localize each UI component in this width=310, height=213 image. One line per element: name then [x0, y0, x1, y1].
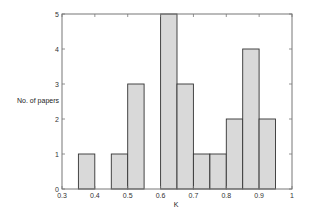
- x-axis-label: K: [174, 201, 179, 208]
- x-tick-label: 0.5: [123, 192, 133, 199]
- histogram-bars: [78, 14, 275, 189]
- y-tick-label: 1: [55, 151, 59, 158]
- histogram-bar: [128, 84, 144, 189]
- histogram-bar: [243, 49, 259, 189]
- x-tick-label: 0.7: [189, 192, 199, 199]
- y-tick-label: 3: [55, 81, 59, 88]
- y-tick-label: 5: [55, 11, 59, 18]
- histogram-bar: [78, 154, 94, 189]
- y-tick-label: 2: [55, 116, 59, 123]
- x-tick-label: 0.3: [57, 192, 67, 199]
- histogram-bar: [111, 154, 127, 189]
- x-tick-label: 0.6: [156, 192, 166, 199]
- x-tick-label: 1: [290, 192, 294, 199]
- x-tick-label: 0.4: [90, 192, 100, 199]
- histogram-bar: [193, 154, 209, 189]
- histogram-bar: [226, 119, 242, 189]
- y-axis-label: No. of papers: [17, 97, 60, 105]
- histogram-bar: [161, 14, 177, 189]
- y-tick-label: 4: [55, 46, 59, 53]
- histogram-chart: 012345 0.30.40.50.60.70.80.91 No. of pap…: [0, 0, 310, 213]
- histogram-bar: [177, 84, 193, 189]
- histogram-bar: [210, 154, 226, 189]
- histogram-bar: [259, 119, 275, 189]
- x-tick-label: 0.9: [254, 192, 264, 199]
- x-tick-label: 0.8: [221, 192, 231, 199]
